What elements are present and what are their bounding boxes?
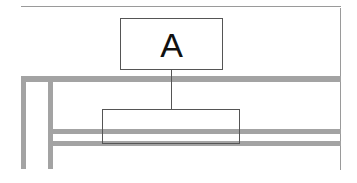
left-outer-post xyxy=(21,76,26,169)
box-a: A xyxy=(120,18,223,70)
left-inner-post xyxy=(48,76,53,169)
connector-line xyxy=(171,69,172,109)
top-frame-line xyxy=(21,6,341,7)
upper-thick-bar xyxy=(21,76,341,82)
box-b xyxy=(102,109,240,144)
box-a-label: A xyxy=(121,25,222,65)
